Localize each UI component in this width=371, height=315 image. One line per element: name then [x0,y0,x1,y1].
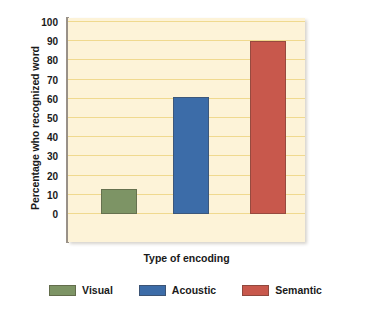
y-axis-tick-labels: 0102030405060708090100 [30,18,58,232]
legend-swatch-icon [49,285,76,296]
x-axis-title: Type of encoding [68,252,305,264]
y-tick-label: 0 [30,209,58,220]
y-tick-label: 30 [30,151,58,162]
legend-label: Visual [82,284,113,296]
y-tick-label: 90 [30,36,58,47]
chart-legend: VisualAcousticSemantic [0,284,371,296]
y-tick-label: 70 [30,74,58,85]
bar-visual[interactable] [101,189,137,214]
legend-swatch-icon [242,285,269,296]
y-tick-label: 60 [30,93,58,104]
plot-area [68,18,305,242]
y-tick-label: 80 [30,55,58,66]
y-tick-label: 50 [30,113,58,124]
bars-group [68,18,305,242]
y-tick-label: 100 [30,17,58,28]
legend-item-acoustic[interactable]: Acoustic [139,284,216,296]
y-tick-label: 10 [30,189,58,200]
bar-fill [173,97,209,214]
bar-chart-figure: Percentage who recognized word 010203040… [0,0,371,315]
bar-acoustic[interactable] [173,97,209,214]
legend-swatch-icon [139,285,166,296]
legend-label: Acoustic [172,284,216,296]
bar-fill [250,41,286,214]
y-tick-label: 40 [30,132,58,143]
bar-fill [101,189,137,214]
legend-label: Semantic [275,284,322,296]
y-tick-label: 20 [30,170,58,181]
legend-item-semantic[interactable]: Semantic [242,284,322,296]
bar-semantic[interactable] [250,41,286,214]
legend-item-visual[interactable]: Visual [49,284,113,296]
